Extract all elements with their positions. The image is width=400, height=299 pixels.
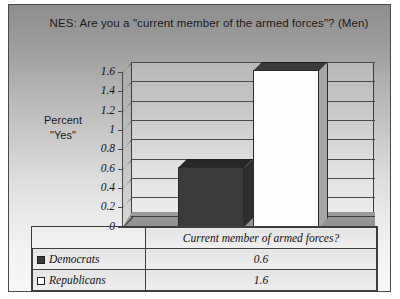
y-tick-0.2 bbox=[118, 207, 123, 208]
bar-democrats-front-face bbox=[178, 167, 244, 227]
y-tick-label-1: 1 bbox=[81, 123, 115, 135]
table-header-blank bbox=[33, 228, 146, 249]
table-row[interactable]: Republicans 1.6 bbox=[33, 270, 377, 291]
table-row[interactable]: Democrats 0.6 bbox=[33, 249, 377, 270]
y-tick-label-0.4: 0.4 bbox=[81, 181, 115, 193]
bar-republicans-front-face bbox=[253, 70, 319, 227]
legend-item-republicans[interactable]: Republicans bbox=[33, 270, 146, 291]
y-tick-1.2 bbox=[118, 111, 123, 112]
legend-swatch-democrats-icon bbox=[37, 256, 45, 264]
y-tick-1.4 bbox=[118, 91, 123, 92]
y-tick-label-1.6: 1.6 bbox=[81, 65, 115, 77]
bar-democrats[interactable] bbox=[178, 159, 253, 227]
bar-democrats-side-face bbox=[244, 159, 253, 227]
legend-swatch-republicans-icon bbox=[37, 277, 45, 285]
y-tick-0.4 bbox=[118, 188, 123, 189]
y-tick-label-0.2: 0.2 bbox=[81, 200, 115, 212]
table-header-row: Current member of armed forces? bbox=[33, 228, 377, 249]
table-header-category: Current member of armed forces? bbox=[146, 228, 377, 249]
y-tick-label-1.2: 1.2 bbox=[81, 104, 115, 116]
y-tick-0.8 bbox=[118, 149, 123, 150]
legend-label-republicans: Republicans bbox=[49, 274, 106, 286]
legend-item-democrats[interactable]: Democrats bbox=[33, 249, 146, 270]
legend-label-democrats: Democrats bbox=[49, 253, 99, 265]
y-tick-label-1.4: 1.4 bbox=[81, 84, 115, 96]
table-cell-republicans-value: 1.6 bbox=[146, 270, 377, 291]
table-cell-democrats-value: 0.6 bbox=[146, 249, 377, 270]
legend-data-table: Current member of armed forces? Democrat… bbox=[31, 226, 378, 292]
y-axis-line bbox=[122, 72, 123, 228]
chart-title: NES: Are you a "current member of the ar… bbox=[49, 16, 369, 31]
bar-republicans[interactable] bbox=[253, 62, 328, 227]
y-tick-1 bbox=[118, 130, 123, 131]
bar-republicans-side-face bbox=[319, 62, 328, 227]
y-tick-1.6 bbox=[118, 72, 123, 73]
chart-screenshot: NES: Are you a "current member of the ar… bbox=[0, 0, 400, 299]
y-tick-0.6 bbox=[118, 169, 123, 170]
y-tick-label-0.8: 0.8 bbox=[81, 142, 115, 154]
chart-frame: NES: Are you a "current member of the ar… bbox=[8, 4, 391, 292]
y-tick-label-0.6: 0.6 bbox=[81, 162, 115, 174]
plot-area: 1.6 1.4 1.2 1 0.8 0.6 0.4 0.2 0 bbox=[122, 57, 378, 229]
